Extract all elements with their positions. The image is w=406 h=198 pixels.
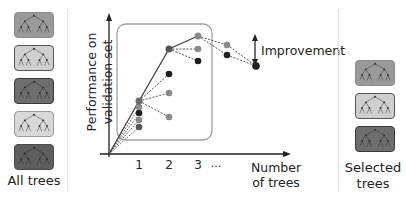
x-axis-arrow-icon (283, 151, 291, 157)
data-point-selected (136, 98, 143, 105)
x-axis-label-line1: Number (246, 160, 306, 175)
right-divider (338, 10, 339, 190)
x-tick-1: 1 (134, 157, 144, 173)
y-axis-label-line2: validation set (100, 32, 116, 132)
x-axis-label-line2: of trees (246, 175, 306, 190)
data-point (224, 42, 231, 49)
data-point-selected (195, 33, 202, 40)
tree-icon (355, 126, 395, 152)
x-tick-2: 2 (164, 157, 174, 173)
selected-trees-label: Selected trees (340, 160, 406, 192)
candidate-lines-step4 (198, 36, 256, 66)
improvement-label: Improvement (261, 43, 345, 59)
data-point (136, 110, 143, 117)
data-point (136, 104, 143, 111)
data-point (136, 117, 143, 124)
data-point (136, 124, 143, 131)
tree-icon (355, 60, 395, 86)
data-point-selected (166, 46, 173, 53)
data-point (166, 114, 173, 121)
x-axis-label: Number of trees (246, 160, 306, 190)
arrow-up-icon (252, 34, 258, 41)
x-tick-ellipsis: ... (208, 156, 224, 172)
selected-trees-label-line2: trees (340, 176, 406, 192)
selection-box (117, 24, 212, 140)
candidate-lines-step2 (139, 74, 169, 117)
y-axis-arrow-icon (106, 13, 112, 21)
y-axis-label-line1: Performance on (84, 32, 100, 132)
data-point (195, 46, 202, 53)
data-point (195, 58, 202, 65)
x-tick-3: 3 (193, 157, 203, 173)
data-point (224, 52, 231, 59)
selected-trees-label-line1: Selected (340, 160, 406, 176)
y-axis-label: Performance on validation set (84, 32, 116, 132)
tree-icon (355, 93, 395, 119)
data-point (166, 71, 173, 78)
candidate-lines-step3 (169, 49, 198, 61)
data-point (166, 90, 173, 97)
